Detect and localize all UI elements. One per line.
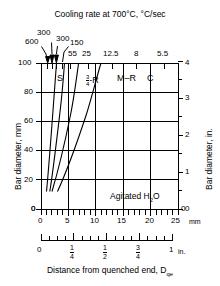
x-axis-caption-text: Distance from quenched end, D: [47, 265, 167, 275]
x-axis-caption: Distance from quenched end, Dqe: [0, 266, 220, 278]
mm-axis-zero-right: 0: [181, 205, 185, 213]
quench-suffix: O: [153, 191, 160, 201]
right-tick-label-2: 2: [185, 131, 189, 139]
top-tick-label-300b: 300: [56, 35, 69, 43]
quench-medium-annotation: Agitated H2O: [110, 192, 160, 204]
plot-frame: [41, 63, 178, 209]
right-axis-ticks: [178, 61, 183, 209]
top-tick-label-8: 8: [134, 50, 138, 58]
top-tick-label-600: 600: [25, 38, 38, 46]
fraction-one-quarter: 14: [70, 244, 74, 260]
in-tick-label-half: 12: [103, 244, 107, 261]
curve-surface: [47, 63, 57, 192]
quench-prefix: Agitated H: [110, 191, 150, 201]
curve-label-surface: S: [57, 74, 63, 83]
top-tick-label-12-5: 12.5: [103, 50, 119, 58]
top-tick-label-150: 150: [70, 39, 83, 47]
top-tick-label-5-5: 5.5: [157, 50, 168, 58]
top-tick-label-55: 55: [68, 50, 77, 58]
mm-tick-label-15: 15: [117, 217, 126, 225]
mm-tick-label-5: 5: [65, 217, 69, 225]
mm-tick-label-0: 0: [38, 217, 42, 225]
top-tick-label-25: 25: [82, 50, 91, 58]
curve-label-three-quarter-radius: 34-R: [86, 74, 99, 88]
right-tick-label-3: 3: [185, 94, 189, 102]
mm-tick-label-10: 10: [90, 217, 99, 225]
top-tick-label-300a: 300: [37, 29, 50, 37]
left-tick-label-40: 40: [24, 146, 33, 154]
in-tick-label-three-quarters: 34: [136, 244, 140, 261]
in-tick-label-0: 0: [37, 246, 41, 254]
in-unit-label: in.: [178, 248, 185, 255]
right-axis-label: Bar diameter, in.: [205, 128, 214, 190]
fraction-three-quarters: 34: [86, 74, 89, 88]
curve-label-center: C: [147, 74, 154, 83]
mm-unit-label: mm: [189, 218, 201, 225]
x-axis-caption-sub: qe: [166, 271, 173, 277]
left-axis-ticks: [36, 63, 41, 209]
mm-axis-zero-left: 0: [31, 205, 35, 213]
bottom-inch-axis: [41, 233, 173, 240]
right-tick-label-1: 1: [185, 168, 189, 176]
top-axis-ticks: [48, 63, 165, 69]
right-tick-label-4: 4: [185, 59, 189, 67]
left-tick-label-80: 80: [24, 88, 33, 96]
fraction-three-quarters-axis: 34: [136, 244, 140, 260]
curve-label-mid-radius: M–R: [117, 74, 136, 83]
left-tick-label-60: 60: [24, 117, 33, 125]
mm-tick-label-20: 20: [145, 217, 154, 225]
hardenability-chart: Cooling rate at 700°C, °C/sec: [0, 0, 220, 286]
left-tick-label-20: 20: [24, 176, 33, 184]
mm-tick-label-25: 25: [171, 217, 180, 225]
in-tick-label-1: 1: [169, 246, 173, 254]
bottom-mm-axis: [41, 203, 178, 216]
in-tick-label-quarter: 14: [70, 244, 74, 261]
curve-label-3-4-r-suffix: -R: [89, 75, 99, 85]
fraction-one-half: 12: [103, 244, 107, 260]
left-tick-label-100: 100: [18, 59, 31, 67]
top-label-leaders: [42, 43, 69, 64]
right-tick-label-0: 0: [185, 205, 189, 213]
left-axis-label: Bar diameter, mm: [14, 123, 23, 190]
